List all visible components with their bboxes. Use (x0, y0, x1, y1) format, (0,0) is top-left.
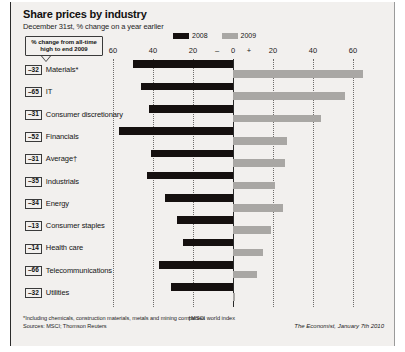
footnote-sources: Sources: MSCI; Thomson Reuters (23, 323, 107, 329)
row-label: –14Health care (25, 237, 83, 259)
row-label-text: Utilities (46, 289, 69, 297)
row-label-text: Health care (46, 244, 83, 252)
bar-2009 (233, 182, 275, 190)
x-axis-tick-20: 20 (189, 46, 197, 55)
status-badge: –66 (25, 266, 42, 276)
bar-2009 (233, 293, 235, 301)
bar-2008 (151, 150, 233, 158)
bar-2008 (133, 60, 233, 68)
legend-item-2008: 2008 (173, 32, 208, 39)
row-label-text: Materials* (46, 66, 78, 74)
chart-subtitle: December 31st, % change on a year earlie… (23, 22, 164, 31)
publication-credit: The Economist, January 7th 2010 (294, 323, 384, 329)
status-badge: –35 (25, 177, 42, 187)
callout-line-1: % change from all-time (31, 39, 97, 46)
bar-2008 (165, 194, 233, 202)
x-axis-tick-plus: + (247, 46, 251, 55)
bar-2009 (233, 70, 363, 78)
chart-row (11, 81, 396, 103)
row-label: –66Telecommunications (25, 260, 112, 282)
bar-2008 (171, 283, 233, 291)
status-badge: –14 (25, 244, 42, 254)
legend-item-2009: 2009 (222, 32, 257, 39)
bar-2009 (233, 115, 321, 123)
bar-2008 (141, 83, 233, 91)
row-label: –52Financials (25, 126, 79, 148)
legend-label-2008: 2008 (192, 32, 208, 39)
footnote-dagger: †MSCI world index (188, 315, 235, 321)
status-badge: –65 (25, 87, 42, 97)
bar-2008 (119, 127, 233, 135)
row-label-text: Average† (46, 155, 77, 163)
status-badge: –34 (25, 199, 42, 209)
row-label-text: Energy (46, 200, 69, 208)
row-label: –34Energy (25, 193, 69, 215)
bar-2008 (159, 261, 233, 269)
chart-figure: Share prices by industry December 31st, … (10, 2, 395, 346)
bar-2009 (233, 249, 263, 257)
page-title: Share prices by industry (23, 8, 147, 20)
row-label-text: Industrials (46, 178, 79, 186)
status-badge: –13 (25, 221, 42, 231)
status-badge: –31 (25, 154, 42, 164)
status-badge: –52 (25, 132, 42, 142)
x-axis-tick-labels: 604020–0+204060 (11, 46, 394, 58)
x-axis-tick-40: 40 (309, 46, 317, 55)
row-label: –35Industrials (25, 171, 79, 193)
x-axis-tick-0: 0 (231, 46, 235, 55)
row-label: –31Average† (25, 148, 77, 170)
x-axis-tick-20: 20 (269, 46, 277, 55)
legend-swatch-2008 (173, 33, 189, 39)
x-axis-tick-minus: – (215, 46, 219, 55)
legend-swatch-2009 (222, 33, 238, 39)
chart-inner: Share prices by industry December 31st, … (11, 2, 394, 346)
chart-legend: 2008 2009 (173, 32, 256, 39)
row-label: –31Consumer discretionary (25, 104, 123, 126)
status-badge: –32 (25, 65, 42, 75)
row-label-text: Financials (46, 133, 79, 141)
bar-2009 (233, 137, 287, 145)
footnote-asterisk: *Including chemicals, construction mater… (23, 315, 205, 321)
bar-2008 (177, 216, 233, 224)
row-label-text: Telecommunications (46, 267, 112, 275)
bar-2008 (183, 239, 233, 247)
status-badge: –32 (25, 288, 42, 298)
legend-label-2009: 2009 (241, 32, 257, 39)
row-label: –13Consumer staples (25, 215, 105, 237)
row-label: –32Materials* (25, 59, 78, 81)
row-label: –32Utilities (25, 282, 69, 304)
bar-2009 (233, 226, 271, 234)
row-label-text: Consumer discretionary (46, 111, 123, 119)
bar-2009 (233, 204, 283, 212)
bar-2009 (233, 271, 257, 279)
x-axis-tick-60: 60 (349, 46, 357, 55)
bar-2009 (233, 92, 345, 100)
bar-2008 (149, 105, 233, 113)
status-badge: –31 (25, 110, 42, 120)
row-label-text: Consumer staples (46, 222, 105, 230)
row-label: –65IT (25, 81, 52, 103)
bar-2008 (147, 172, 233, 180)
x-axis-tick-40: 40 (149, 46, 157, 55)
row-label-text: IT (46, 88, 52, 96)
x-axis-tick-60: 60 (109, 46, 117, 55)
bar-2009 (233, 159, 285, 167)
